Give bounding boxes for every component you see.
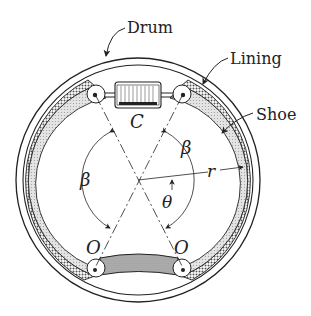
label-lining: Lining <box>230 49 282 68</box>
pivot-top-left <box>87 85 105 103</box>
label-beta-left: β <box>79 169 90 190</box>
wheel-cylinder <box>100 82 178 108</box>
label-beta-right: β <box>180 137 191 158</box>
label-radius-r: r <box>207 161 216 181</box>
label-pivot-right: O <box>174 237 189 258</box>
pivot-bottom-right <box>173 259 191 277</box>
label-drum: Drum <box>127 18 173 37</box>
label-shoe: Shoe <box>256 105 296 124</box>
anchor-link <box>100 254 178 275</box>
drum-brake-diagram: Drum Lining Shoe C β β θ r O O <box>0 0 311 316</box>
label-theta: θ <box>162 192 172 212</box>
radius-dimension <box>138 167 243 180</box>
pivot-bottom-left <box>87 259 105 277</box>
pivot-top-right <box>173 85 191 103</box>
label-cylinder-c: C <box>130 111 144 132</box>
label-pivot-left: O <box>86 237 101 258</box>
